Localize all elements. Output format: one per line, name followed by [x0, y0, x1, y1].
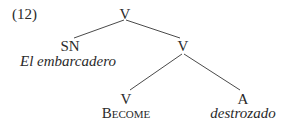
edge-root-vp — [126, 20, 180, 38]
edge-root-subject — [74, 20, 124, 38]
edge-vp-verb — [130, 54, 182, 90]
node-root-v: V — [120, 7, 131, 22]
gloss-subject: El embarcadero — [20, 54, 116, 69]
gloss-verb: Become — [102, 106, 151, 121]
node-vp-v: V — [178, 39, 189, 54]
gloss-adj: destrozado — [210, 106, 275, 121]
node-sn: SN — [60, 39, 79, 54]
edge-vp-adj — [184, 54, 240, 90]
